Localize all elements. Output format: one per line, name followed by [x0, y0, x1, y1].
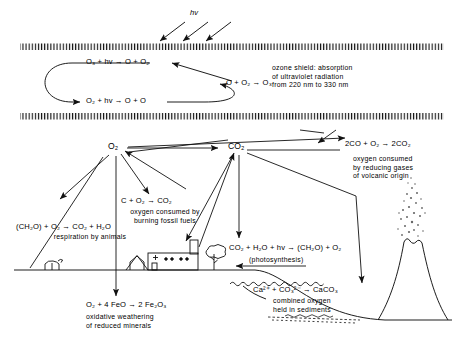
- caption-volcanic-reducing-gases: oxygen consumed by reducing gases of vol…: [353, 155, 413, 181]
- incoming-radiation-label: hv: [190, 8, 198, 17]
- caption-oxidative-weathering: oxidative weathering of reduced minerals: [86, 313, 154, 330]
- caption-sediment-line-1: combined oxygen: [243, 297, 361, 306]
- caption-weathering-line-2: of reduced minerals: [86, 322, 154, 331]
- node-carbon-dioxide: CO₂: [228, 141, 244, 152]
- volcano-icon: [378, 239, 448, 320]
- animal-icon: [45, 259, 63, 270]
- landscape: [14, 270, 452, 320]
- equation-photosynthesis: CO₂ + H₂O + hv → (CH₂O) + O₂: [229, 243, 341, 252]
- equation-volcanic-reducing-gases: 2CO + O₂ → 2CO₂: [345, 139, 411, 148]
- tree-icon: [206, 245, 226, 271]
- factory-icon: [148, 240, 198, 270]
- volcanic-plume: [397, 177, 426, 237]
- caption-weathering-line-1: oxidative weathering: [86, 313, 154, 322]
- caption-respiration: respiration by animals: [16, 233, 164, 242]
- ozone-shield-note-line-1: ozone shield: absorption: [272, 64, 353, 73]
- ozone-shield-note: ozone shield: absorption of ultraviolet …: [272, 64, 353, 90]
- equation-fossil-fuel-burning: C + O₂ → CO₂: [121, 196, 172, 205]
- equation-oxidative-weathering: O₂ + 4 FeO → 2 Fe₂O₃: [86, 300, 167, 309]
- caption-fossil-fuel-line-1: oxygen consumed by: [106, 208, 224, 217]
- equation-ozone-formation: O + O₂ → O₃: [226, 78, 272, 87]
- equation-respiration: (CH₂O) + O₂ → CO₂ + H₂O: [16, 222, 111, 231]
- house-icon: [126, 256, 148, 271]
- caption-sediment-line-2: held in sediments: [243, 306, 361, 315]
- equation-ozone-photolysis: O₃ + hv → O + O₂: [86, 57, 149, 66]
- caption-volcanic-line-2: by reducing gases: [353, 164, 413, 173]
- caption-volcanic-line-3: of volcanic origin: [353, 172, 413, 181]
- ozone-shield-note-line-3: from 220 nm to 330 nm: [272, 81, 353, 90]
- ozone-shield-note-line-2: of ultraviolet radiation: [272, 73, 353, 82]
- caption-fossil-fuel-line-2: burning fossil fuels: [106, 217, 224, 226]
- node-oxygen: O₂: [108, 141, 118, 152]
- oxygen-cycle-figure: hv O₃ + hv → O + O₂ O₂ + hv → O + O O + …: [0, 0, 458, 354]
- sediment-floor: [268, 317, 360, 323]
- equation-oxygen-photolysis: O₂ + hv → O + O: [86, 96, 146, 105]
- incoming-radiation-arrows: [160, 22, 231, 41]
- equation-carbonate-sedimentation: Ca²⁺ + CO₃²⁻ → CaCO₃: [253, 285, 338, 294]
- caption-fossil-fuel-burning: oxygen consumed by burning fossil fuels: [106, 208, 224, 225]
- caption-volcanic-line-1: oxygen consumed: [353, 155, 413, 164]
- caption-photosynthesis: (photosynthesis): [249, 256, 304, 265]
- caption-carbonate-sedimentation: combined oxygen held in sediments: [243, 297, 361, 314]
